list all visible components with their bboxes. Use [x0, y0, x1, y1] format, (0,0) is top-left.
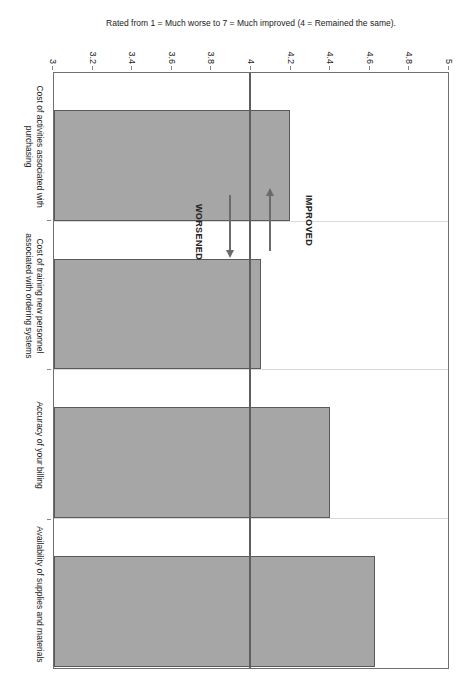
value-axis-ticks: 5 4.8 4.6 4.4 4.2 4 3.8 3.6 3.4 3.2 3: [53, 0, 449, 70]
annotation-improved-arrow: [269, 195, 271, 252]
category-tick: [47, 519, 51, 520]
category-tick: [47, 220, 51, 221]
gridline: [54, 369, 448, 370]
category-label-supplies: Availability of supplies and materials: [34, 523, 45, 666]
axis-tick-mark: [369, 66, 370, 70]
axis-tick-label: 3.6: [167, 4, 177, 64]
axis-tick-mark: [131, 66, 132, 70]
category-axis: Cost of activities associated with purch…: [0, 72, 51, 669]
axis-tick-label: 3.2: [88, 4, 98, 64]
axis-tick-mark: [210, 66, 211, 70]
arrow-head-left-icon: [266, 188, 274, 196]
bar-availability-of-supplies[interactable]: [54, 556, 375, 667]
axis-tick-label: 4.4: [325, 4, 335, 64]
axis-tick-mark: [408, 66, 409, 70]
axis-tick-label: 5: [444, 4, 454, 64]
axis-tick-label: 4: [246, 4, 256, 64]
annotation-worsened-arrow: [229, 195, 231, 252]
axis-tick-label: 4.8: [404, 4, 414, 64]
category-label-billing: Accuracy of your billing: [34, 373, 45, 516]
plot-area: IMPROVED WORSENED: [53, 72, 449, 669]
axis-tick-label: 4.6: [365, 4, 375, 64]
axis-tick-mark: [52, 66, 53, 70]
category-label-training: Cost of training new personnel associate…: [23, 224, 45, 367]
annotation-improved-label: IMPROVED: [304, 195, 314, 246]
category-tick: [47, 369, 51, 370]
axis-tick-label: 3: [48, 4, 58, 64]
reference-line-value-4: [249, 73, 251, 668]
gridline: [54, 221, 448, 222]
axis-tick-mark: [290, 66, 291, 70]
axis-tick-label: 3.8: [206, 4, 216, 64]
bar-cost-of-activities-purchasing[interactable]: [54, 110, 290, 221]
gridline: [54, 518, 448, 519]
axis-tick-label: 4.2: [286, 4, 296, 64]
axis-tick-mark: [171, 66, 172, 70]
rotated-figure-wrapper: Rated from 1 = Much worse to 7 = Much im…: [0, 0, 476, 698]
axis-tick-mark: [448, 66, 449, 70]
bar-cost-of-training-new-personnel[interactable]: [54, 259, 261, 370]
bar-chart-figure: Rated from 1 = Much worse to 7 = Much im…: [0, 0, 476, 698]
axis-tick-label: 3.4: [127, 4, 137, 64]
bar-accuracy-of-your-billing[interactable]: [54, 407, 330, 518]
axis-tick-mark: [329, 66, 330, 70]
annotation-worsened-label: WORSENED: [194, 204, 204, 260]
arrow-head-right-icon: [226, 250, 234, 258]
axis-tick-mark: [92, 66, 93, 70]
category-label-purchasing: Cost of activities associated with purch…: [23, 75, 45, 218]
axis-tick-mark: [250, 66, 251, 70]
